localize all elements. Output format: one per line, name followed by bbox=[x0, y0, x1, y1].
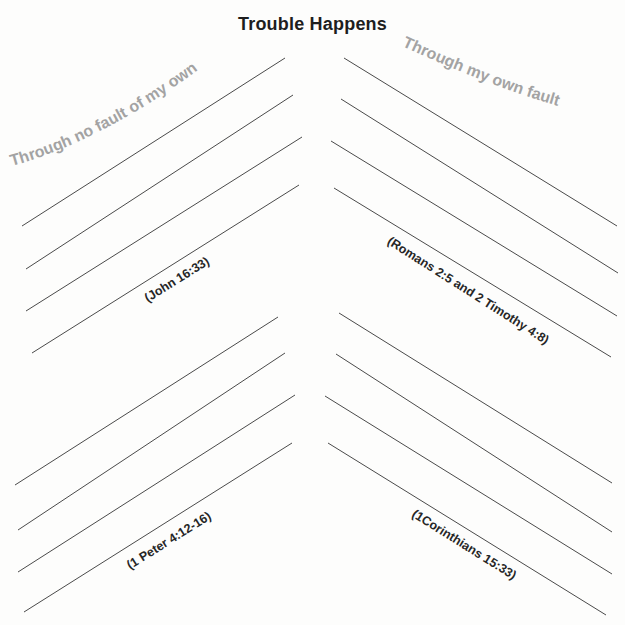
writing-line[interactable] bbox=[334, 188, 611, 357]
writing-line[interactable] bbox=[26, 95, 293, 269]
left-heading-text: Through no fault of my own bbox=[8, 59, 200, 169]
writing-line[interactable] bbox=[32, 185, 299, 353]
writing-line[interactable] bbox=[328, 443, 606, 615]
left-heading: Through no fault of my own bbox=[8, 59, 200, 169]
writing-line[interactable] bbox=[344, 58, 617, 226]
writing-line[interactable] bbox=[15, 317, 278, 485]
writing-line[interactable] bbox=[24, 443, 292, 612]
line-group-top-right bbox=[331, 58, 618, 357]
worksheet-page: Trouble Happens Through no fault of my o… bbox=[0, 0, 625, 625]
line-group-top-left bbox=[22, 58, 302, 353]
writing-line[interactable] bbox=[336, 354, 612, 532]
reference-romans-timothy: (Romans 2:5 and 2 Timothy 4:8) bbox=[385, 234, 552, 347]
writing-line[interactable] bbox=[339, 313, 612, 483]
line-group-bottom-left bbox=[15, 317, 295, 612]
line-group-bottom-right bbox=[325, 313, 612, 615]
reference-1-corinthians: (1Corinthians 15:33) bbox=[409, 507, 518, 583]
writing-line[interactable] bbox=[341, 99, 618, 273]
worksheet-canvas: Through no fault of my own Through my ow… bbox=[0, 0, 625, 625]
writing-line[interactable] bbox=[18, 353, 285, 530]
right-heading: Through my own fault bbox=[401, 33, 563, 109]
right-heading-text: Through my own fault bbox=[401, 33, 563, 109]
